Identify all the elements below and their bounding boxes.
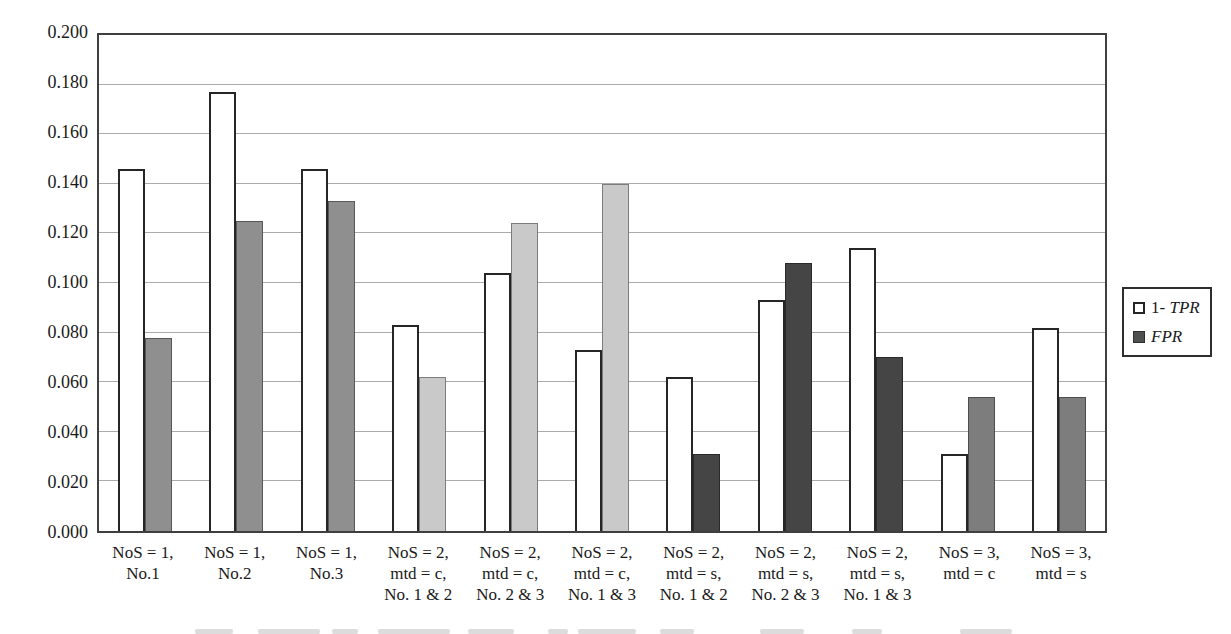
bar-1-tpr (484, 273, 511, 531)
legend-item: FPR (1133, 327, 1210, 347)
bar-fpr (328, 201, 355, 531)
x-axis-category-label: NoS = 3,mtd = c (923, 542, 1015, 605)
caption-smudge (378, 629, 450, 634)
bar-group (465, 35, 556, 531)
caption-smudge (960, 629, 1012, 634)
chart-page: { "chart_data": { "type": "bar", "title"… (0, 0, 1231, 634)
legend-swatch-1-tpr (1133, 302, 1145, 314)
y-axis-tick-label: 0.160 (0, 122, 88, 143)
x-axis-category-label: NoS = 1,No.1 (97, 542, 189, 605)
caption-smudge (468, 629, 514, 634)
y-axis-tick-label: 0.000 (0, 522, 88, 543)
bar-1-tpr (849, 248, 876, 531)
y-axis-tick-label: 0.080 (0, 322, 88, 343)
bar-fpr (785, 263, 812, 531)
legend-label: 1- TPR (1151, 298, 1200, 318)
bar-group (739, 35, 830, 531)
x-axis-category-label: NoS = 2,mtd = s,No. 1 & 2 (648, 542, 740, 605)
y-axis-tick-label: 0.020 (0, 472, 88, 493)
x-axis-category-label: NoS = 2,mtd = c,No. 1 & 2 (372, 542, 464, 605)
bar-group (831, 35, 922, 531)
bar-1-tpr (392, 325, 419, 531)
legend: 1- TPRFPR (1122, 287, 1212, 357)
caption-smudge (578, 629, 636, 634)
y-axis-tick-label: 0.120 (0, 222, 88, 243)
caption-smudge (258, 629, 320, 634)
y-axis-tick-label: 0.060 (0, 372, 88, 393)
y-axis-tick-label: 0.180 (0, 72, 88, 93)
x-axis-category-label: NoS = 1,No.2 (189, 542, 281, 605)
caption-smudge (760, 629, 804, 634)
bar-group (1014, 35, 1105, 531)
bar-1-tpr (118, 169, 145, 531)
bar-fpr (1059, 397, 1086, 531)
bar-1-tpr (758, 300, 785, 531)
x-axis: NoS = 1,No.1NoS = 1,No.2NoS = 1,No.3NoS … (97, 542, 1107, 605)
bar-group (190, 35, 281, 531)
bar-group (922, 35, 1013, 531)
bar-group (556, 35, 647, 531)
x-axis-category-label: NoS = 2,mtd = s,No. 2 & 3 (740, 542, 832, 605)
bar-group (99, 35, 190, 531)
legend-label: FPR (1151, 327, 1182, 347)
bar-1-tpr (575, 350, 602, 531)
caption-smudge (332, 629, 358, 634)
bar-fpr (145, 338, 172, 531)
y-axis-tick-label: 0.100 (0, 272, 88, 293)
x-axis-category-label: NoS = 1,No.3 (281, 542, 373, 605)
y-axis-tick-label: 0.200 (0, 22, 88, 43)
bar-1-tpr (941, 454, 968, 531)
x-axis-category-label: NoS = 2,mtd = c,No. 2 & 3 (464, 542, 556, 605)
y-axis-tick-label: 0.040 (0, 422, 88, 443)
legend-swatch-fpr (1133, 331, 1145, 343)
legend-item: 1- TPR (1133, 298, 1210, 318)
bar-fpr (693, 454, 720, 531)
plot-area (97, 33, 1107, 533)
x-axis-category-label: NoS = 3,mtd = s (1015, 542, 1107, 605)
bar-1-tpr (209, 92, 236, 531)
x-axis-category-label: NoS = 2,mtd = s,No. 1 & 3 (832, 542, 924, 605)
bar-fpr (968, 397, 995, 531)
bar-1-tpr (1032, 328, 1059, 531)
caption-smudge (660, 629, 694, 634)
bar-1-tpr (666, 377, 693, 531)
caption-smudge (852, 629, 882, 634)
x-axis-category-label: NoS = 2,mtd = c,No. 1 & 3 (556, 542, 648, 605)
cut-off-caption (0, 629, 1231, 634)
caption-smudge (548, 629, 568, 634)
caption-smudge (195, 629, 233, 634)
bar-fpr (236, 221, 263, 531)
bar-fpr (419, 377, 446, 531)
bar-fpr (876, 357, 903, 531)
bar-fpr (511, 223, 538, 531)
bar-group (282, 35, 373, 531)
y-axis-tick-label: 0.140 (0, 172, 88, 193)
bar-fpr (602, 184, 629, 531)
bar-1-tpr (301, 169, 328, 531)
bar-group (648, 35, 739, 531)
bar-group (373, 35, 464, 531)
